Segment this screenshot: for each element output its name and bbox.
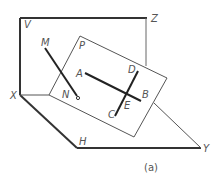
vertical-plane-frame — [20, 18, 147, 95]
label-b: B — [142, 89, 149, 100]
label-h: H — [79, 136, 87, 147]
line-ab — [85, 73, 141, 101]
label-z: Z — [150, 13, 159, 24]
label-m: M — [41, 37, 50, 48]
label-v: V — [24, 19, 32, 30]
label-c: C — [108, 109, 115, 120]
label-e: E — [124, 100, 131, 111]
horizontal-plane-frame — [20, 95, 201, 148]
figure-caption: (a) — [144, 162, 158, 173]
label-p: P — [79, 40, 86, 51]
label-x: X — [9, 90, 18, 101]
label-a: A — [75, 68, 83, 79]
point-n-marker — [76, 96, 79, 99]
label-n: N — [62, 89, 70, 100]
oblique-plane-p — [49, 36, 167, 137]
label-d: D — [128, 64, 136, 75]
label-y: Y — [203, 143, 210, 154]
projection-diagram: V Z M P A D B E C N X H Y (a) — [0, 0, 217, 181]
